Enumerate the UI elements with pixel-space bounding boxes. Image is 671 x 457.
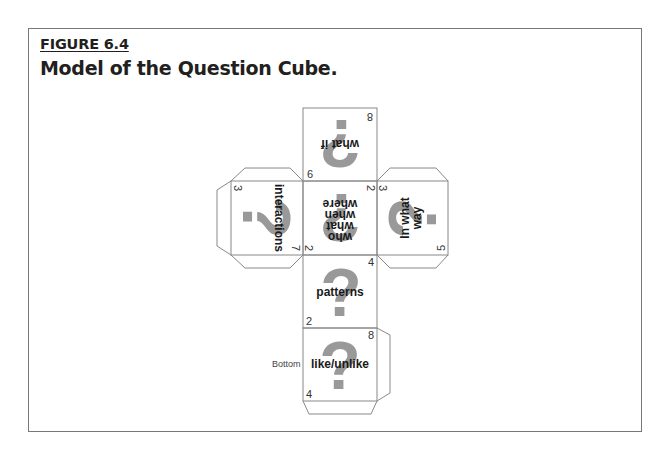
svg-text:3: 3 [377,185,389,191]
left-face-content: ? interactions [229,184,305,252]
svg-text:2: 2 [365,185,377,191]
flap-right-bottom [377,255,448,268]
svg-text:7: 7 [290,245,302,251]
svg-text:5: 5 [435,245,447,251]
right-face-content: ? In what way [374,197,450,239]
svg-text:patterns: patterns [316,285,364,299]
question-cube-net: ? what if 8 6 ? interactions 3 7 ? who w… [0,0,671,457]
svg-text:3: 3 [232,185,244,191]
front-face-content: ? patterns [316,254,364,330]
top-face-content: ? what if [319,106,361,182]
svg-text:2: 2 [303,245,315,251]
svg-text:4: 4 [368,256,374,268]
svg-text:8: 8 [368,329,374,341]
svg-text:8: 8 [367,111,373,123]
svg-text:where: where [322,197,358,211]
bottom-face-content: ? like/unlike [311,327,369,403]
center-face-content: ? who what when where [319,180,361,256]
flap-left-bottom [231,255,303,268]
question-mark-icon: ? [229,197,305,239]
svg-text:4: 4 [306,388,312,400]
svg-text:what if: what if [320,137,360,151]
svg-text:2: 2 [306,315,312,327]
flap-right-top [377,168,448,181]
svg-text:6: 6 [307,168,313,180]
bottom-label: Bottom [272,359,301,369]
svg-text:way: way [410,206,424,230]
flap-bottom-right [377,328,390,401]
flap-left-top [231,168,303,181]
svg-text:like/unlike: like/unlike [311,357,369,371]
svg-text:interactions: interactions [272,184,286,252]
flap-left-side [217,181,231,255]
